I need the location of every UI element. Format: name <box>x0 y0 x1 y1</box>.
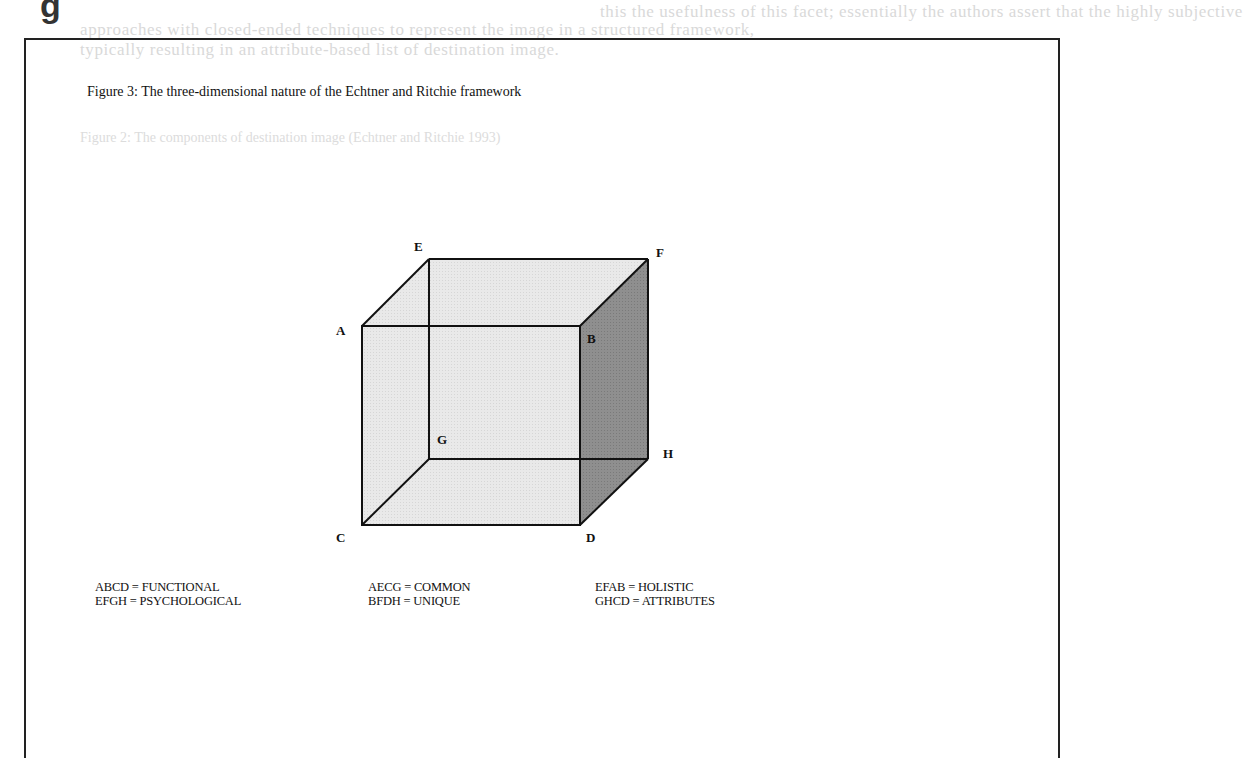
legend-column-1: ABCD = FUNCTIONAL EFGH = PSYCHOLOGICAL <box>95 580 241 608</box>
vertex-label-f: F <box>656 245 664 261</box>
legend-item-common: AECG = COMMON <box>368 580 470 594</box>
legend-item-attributes: GHCD = ATTRIBUTES <box>595 594 715 608</box>
vertex-label-a: A <box>336 323 345 339</box>
legend-column-3: EFAB = HOLISTIC GHCD = ATTRIBUTES <box>595 580 715 608</box>
legend-item-unique: BFDH = UNIQUE <box>368 594 470 608</box>
legend-column-2: AECG = COMMON BFDH = UNIQUE <box>368 580 470 608</box>
vertex-label-b: B <box>587 331 596 347</box>
vertex-label-d: D <box>586 530 595 546</box>
legend-item-psychological: EFGH = PSYCHOLOGICAL <box>95 594 241 608</box>
vertex-label-e: E <box>414 239 423 255</box>
legend-item-holistic: EFAB = HOLISTIC <box>595 580 715 594</box>
legend-item-functional: ABCD = FUNCTIONAL <box>95 580 241 594</box>
vertex-label-h: H <box>663 446 673 462</box>
vertex-label-g: G <box>437 432 447 448</box>
vertex-label-c: C <box>336 530 345 546</box>
face-abcd <box>362 326 580 525</box>
